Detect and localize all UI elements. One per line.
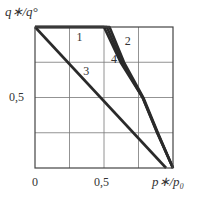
curve-labels: 1234	[76, 30, 130, 78]
curve-label-1: 1	[76, 30, 82, 44]
curve-label-2: 2	[125, 34, 131, 48]
x-tick-0-5: 0,5	[94, 175, 109, 189]
x-axis-label: p∗/p₀	[151, 174, 184, 189]
x-tick-0: 0	[32, 175, 38, 189]
y-tick-0-5: 0,5	[9, 90, 24, 104]
curve-label-3: 3	[83, 64, 89, 78]
curve-label-4: 4	[111, 52, 117, 66]
chart: 1234 q∗/q° p∗/p₀ 0 0,5 0,5	[0, 0, 206, 197]
y-axis-label: q∗/q°	[5, 4, 38, 19]
